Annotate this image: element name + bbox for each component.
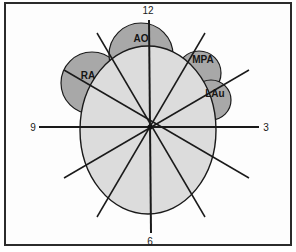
clock-label-12: 12 [142,5,154,16]
lobe-label-ao: AO [134,33,149,44]
center-point [147,124,152,129]
clock-label-3: 3 [263,122,269,133]
lobe-label-ra: RA [81,70,95,81]
diagram-canvas: AO MPA LAu RA 12 3 6 9 [0,0,296,252]
figure-root: AO MPA LAu RA 12 3 6 9 [0,0,296,252]
lobe-label-lau: LAu [205,88,224,99]
clock-label-6: 6 [147,236,153,247]
clock-label-9: 9 [30,122,36,133]
lobe-label-mpa: MPA [192,54,213,65]
